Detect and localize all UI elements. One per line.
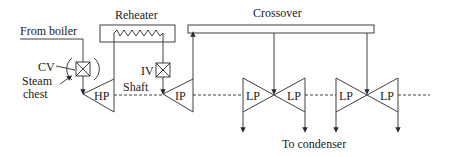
to-condenser-label: To condenser xyxy=(282,137,346,151)
steam-chest-leader-line xyxy=(60,77,70,84)
from-boiler-label: From boiler xyxy=(20,24,77,38)
reheater-coil-icon xyxy=(114,30,163,36)
control-valve-icon xyxy=(76,62,90,76)
steam-chest-arc-right xyxy=(94,58,99,80)
lp3-turbine-label: LP xyxy=(339,89,353,103)
steam-chest-label-1: Steam xyxy=(22,74,53,88)
cv-label: CV xyxy=(38,60,55,74)
turbine-diagram: From boiler CV Steam chest Reheater IV C… xyxy=(0,0,449,157)
crossover-label: Crossover xyxy=(253,6,302,20)
lp4-turbine-label: LP xyxy=(380,89,394,103)
lp2-turbine-label: LP xyxy=(287,89,301,103)
hp-turbine-label: HP xyxy=(94,89,110,103)
reheater-label: Reheater xyxy=(115,8,158,22)
intercept-valve-icon xyxy=(156,63,170,77)
steam-chest-label-2: chest xyxy=(23,87,48,101)
iv-label: IV xyxy=(141,64,154,78)
crossover-pipe xyxy=(188,25,374,33)
boiler-supply-line xyxy=(20,39,83,62)
shaft-label: Shaft xyxy=(123,80,149,94)
cv-leader-line xyxy=(56,66,75,70)
ip-turbine-label: IP xyxy=(175,89,186,103)
lp1-turbine-label: LP xyxy=(246,89,260,103)
